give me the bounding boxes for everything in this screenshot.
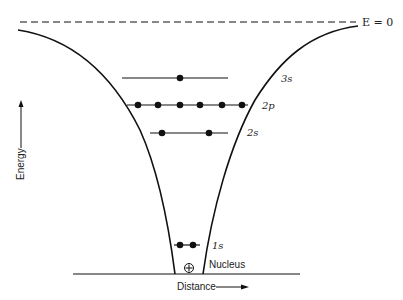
electron-dot — [135, 102, 142, 109]
electron-dot — [177, 102, 184, 109]
electron-dot — [239, 102, 246, 109]
nucleus-icon — [185, 264, 194, 273]
level-2s: 2s — [150, 127, 259, 138]
energy-level-diagram: E = 0 3s 2p 2s 1s Nucleus — [0, 0, 403, 300]
electron-dot — [159, 130, 166, 137]
level-label-2p: 2p — [261, 100, 275, 111]
level-label-2s: 2s — [246, 127, 259, 138]
energy-axis-label: Energy — [15, 148, 26, 180]
level-label-1s: 1s — [212, 240, 224, 251]
electron-dot — [155, 102, 162, 109]
electron-dot — [206, 130, 213, 137]
electron-dot — [177, 75, 184, 82]
arrow-up-icon — [19, 100, 24, 107]
nucleus-label: Nucleus — [209, 259, 245, 270]
potential-curve-left — [18, 30, 175, 274]
potential-curve-right — [203, 26, 358, 274]
electron-dot — [219, 102, 226, 109]
arrow-right-icon — [241, 285, 249, 290]
level-2p: 2p — [127, 100, 275, 111]
level-label-3s: 3s — [281, 73, 293, 84]
zero-energy-label: E = 0 — [362, 16, 393, 29]
electron-dot — [197, 102, 204, 109]
distance-axis-label: Distance — [177, 281, 216, 292]
electron-dot — [190, 242, 197, 249]
level-1s: 1s — [174, 240, 224, 251]
electron-dot — [177, 242, 184, 249]
